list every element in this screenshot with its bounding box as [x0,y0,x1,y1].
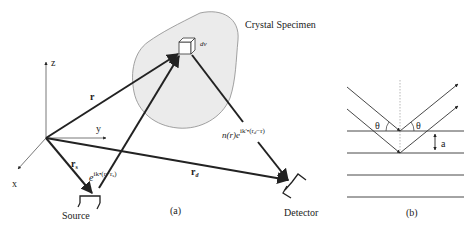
angle-arc-right [411,122,414,131]
coordinate-axes [18,62,106,169]
diffraction-figure: dv Crystal Specimen z y x r rs rd eik•(r… [0,0,476,231]
lattice-planes [347,131,464,197]
scattered-wave-ray-lower [258,142,288,180]
theta-label-left: θ [375,120,380,131]
incident-ray-1 [347,87,400,131]
source-icon [78,196,100,209]
crystal-specimen-shape [133,12,239,128]
z-axis-label: z [51,57,56,68]
panel-b: θ θ a (b) [347,80,464,219]
theta-label-right: θ [416,120,421,131]
panel-a-caption: (a) [170,205,181,217]
x-axis [18,138,46,169]
angle-arc-left [386,122,389,131]
detector-label: Detector [284,207,319,218]
vector-rs-label: rs [71,158,78,170]
vector-rd-label: rd [191,166,199,178]
detector-vector-rd [46,138,288,180]
x-axis-label: x [12,178,17,189]
specimen-label: Crystal Specimen [245,19,316,30]
y-axis-label: y [96,123,101,134]
panel-a: dv Crystal Specimen z y x r rs rd eik•(r… [12,12,319,221]
reflected-ray-1 [400,84,458,131]
source-label: Source [62,210,90,221]
reflected-ray-2 [400,106,458,153]
vector-r-label: r [90,91,95,102]
panel-b-caption: (b) [406,207,418,219]
source-vector-rs [46,138,92,193]
spacing-label: a [441,138,446,149]
volume-label: dv [200,40,208,48]
volume-element-cube-icon [179,38,195,54]
scattered-wave-label: n(r)eik'•(rd−r) [222,127,266,140]
